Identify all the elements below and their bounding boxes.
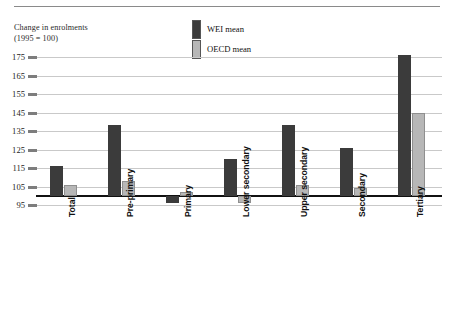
chart-axis-title: Change in enrolments (1995 = 100)	[14, 22, 88, 44]
y-tick-mark	[28, 130, 37, 133]
legend-swatch-wei-mean	[192, 20, 201, 39]
x-axis-label-upper-secondary: Upper secondary	[299, 147, 309, 217]
x-axis-label-pre-primary: Pre-primary	[125, 169, 135, 217]
bar-total-oecd-mean	[64, 185, 77, 196]
legend-label-wei-mean: WEI mean	[207, 24, 244, 34]
gridline	[36, 113, 442, 114]
bar-primary-wei-mean	[166, 196, 179, 203]
legend-item-oecd-mean: OECD mean	[192, 39, 251, 59]
y-tick-mark	[28, 167, 37, 170]
y-tick-label: 135	[12, 126, 25, 136]
x-axis-label-tertiary: Tertiary	[415, 186, 425, 217]
gridline	[36, 150, 442, 151]
y-tick-label: 165	[12, 71, 25, 81]
bar-tertiary-oecd-mean	[412, 113, 425, 196]
legend-item-wei-mean: WEI mean	[192, 19, 251, 39]
y-tick-label: 145	[12, 108, 25, 118]
legend-label-oecd-mean: OECD mean	[207, 44, 251, 54]
gridline	[36, 168, 442, 169]
y-tick-label: 175	[12, 52, 25, 62]
gridline	[36, 94, 442, 95]
y-tick-label: 95	[16, 200, 25, 210]
gridline	[36, 187, 442, 188]
y-tick-label: 115	[12, 163, 25, 173]
gridline	[36, 57, 442, 58]
bar-total-wei-mean	[50, 166, 63, 196]
y-tick-mark	[28, 56, 37, 59]
gridline	[36, 205, 442, 206]
y-tick-mark	[28, 75, 37, 78]
x-axis-label-secondary: Secondary	[357, 173, 367, 217]
legend-swatch-oecd-mean	[192, 40, 201, 59]
x-axis-label-primary: Primary	[183, 185, 193, 217]
plot-area: 95105115125135145155165175 TotalPre-prim…	[36, 57, 442, 205]
y-tick-mark	[28, 93, 37, 96]
bar-pre-primary-wei-mean	[108, 125, 121, 195]
gridline	[36, 131, 442, 132]
x-axis-label-total: Total	[67, 197, 77, 217]
y-tick-label: 125	[12, 145, 25, 155]
gridline	[36, 76, 442, 77]
bar-lower-secondary-wei-mean	[224, 159, 237, 196]
chart-legend: WEI mean OECD mean	[192, 19, 251, 59]
y-tick-label: 105	[12, 182, 25, 192]
y-tick-mark	[28, 204, 37, 207]
y-tick-mark	[28, 149, 37, 152]
bar-secondary-wei-mean	[340, 148, 353, 196]
x-axis-label-lower-secondary: Lower secondary	[241, 146, 251, 217]
y-tick-label: 155	[12, 89, 25, 99]
bar-tertiary-wei-mean	[398, 55, 411, 196]
y-tick-mark	[28, 186, 37, 189]
y-tick-mark	[28, 112, 37, 115]
bar-upper-secondary-wei-mean	[282, 125, 295, 195]
bar-chart: Change in enrolments (1995 = 100) WEI me…	[0, 0, 454, 319]
